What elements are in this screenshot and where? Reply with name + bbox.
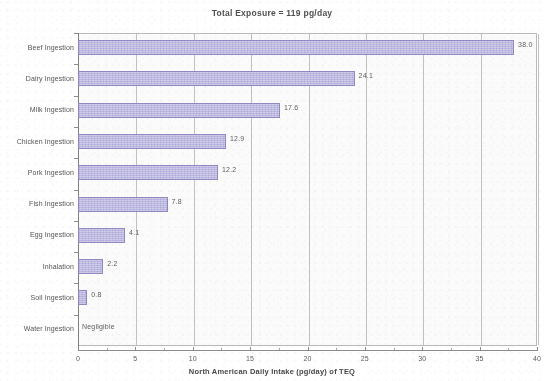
bar-row: Negligible: [78, 315, 537, 346]
x-axis-tick-label: 35: [476, 355, 484, 362]
x-axis-minor-tick: [221, 348, 222, 350]
y-axis-tick: [74, 33, 78, 34]
x-axis-tick-label: 40: [533, 355, 541, 362]
bar: [78, 71, 355, 86]
x-axis-tick-label: 30: [418, 355, 426, 362]
bar-row: 4.1: [78, 221, 537, 252]
x-axis-tick-label: 25: [361, 355, 369, 362]
bar-value-label: 4.1: [129, 229, 139, 236]
x-axis-minor-tick: [508, 348, 509, 350]
y-axis-tick: [74, 127, 78, 128]
y-axis-category-label: Chicken Ingestion: [0, 138, 74, 145]
y-axis-category-label: Dairy Ingestion: [0, 75, 74, 82]
x-axis-tick-label: 15: [246, 355, 254, 362]
y-axis-category-label: Water Ingestion: [0, 325, 74, 332]
x-axis-tick: [78, 347, 79, 351]
x-axis-minor-tick: [336, 348, 337, 350]
x-axis-tick-label: 20: [303, 355, 311, 362]
y-axis-category-label: Beef Ingestion: [0, 44, 74, 51]
x-axis-tick: [537, 347, 538, 351]
bar-value-label: 12.9: [230, 135, 244, 142]
bar-value-label: 0.8: [91, 291, 101, 298]
x-axis-tick-label: 0: [76, 355, 80, 362]
x-axis-minor-tick: [107, 348, 108, 350]
horizontal-bar-chart: Total Exposure = 119 pg/day Beef Ingesti…: [0, 0, 544, 381]
y-axis-tick: [74, 158, 78, 159]
x-axis-tick-label: 5: [133, 355, 137, 362]
y-axis-tick: [74, 315, 78, 316]
y-axis-tick: [74, 96, 78, 97]
bar: [78, 40, 514, 55]
x-axis-minor-tick: [451, 348, 452, 350]
x-axis-minor-tick: [279, 348, 280, 350]
x-axis-tick: [135, 347, 136, 351]
x-axis-tick: [422, 347, 423, 351]
bar: [78, 103, 280, 118]
bar-series: 38.024.117.612.912.27.84.12.20.8Negligib…: [78, 33, 537, 346]
bar-row: 12.9: [78, 127, 537, 158]
y-axis-category-label: Egg Ingestion: [0, 231, 74, 238]
bar: [78, 228, 125, 243]
y-axis-category-label: Fish Ingestion: [0, 200, 74, 207]
y-axis-tick: [74, 252, 78, 253]
x-axis-tick-label: 10: [189, 355, 197, 362]
x-axis-tick: [308, 347, 309, 351]
bar-row: 7.8: [78, 190, 537, 221]
bar-value-label: 12.2: [222, 166, 236, 173]
x-axis-title: North American Daily Intake (pg/day) of …: [0, 367, 544, 376]
x-axis-tick: [480, 347, 481, 351]
bar-value-label: Negligible: [82, 323, 115, 330]
bar: [78, 197, 168, 212]
bar-row: 12.2: [78, 158, 537, 189]
bar-row: 0.8: [78, 283, 537, 314]
gridline: [538, 34, 539, 345]
y-axis-tick: [74, 190, 78, 191]
y-axis-category-label: Inhalation: [0, 263, 74, 270]
y-axis-labels: Beef IngestionDairy IngestionMilk Ingest…: [0, 33, 74, 346]
y-axis-category-label: Soil Ingestion: [0, 294, 74, 301]
bar-row: 38.0: [78, 33, 537, 64]
y-axis-category-label: Pork Ingestion: [0, 169, 74, 176]
bar-value-label: 38.0: [518, 41, 532, 48]
bar-row: 24.1: [78, 64, 537, 95]
bar: [78, 165, 218, 180]
bar-value-label: 7.8: [172, 198, 182, 205]
bar-row: 17.6: [78, 96, 537, 127]
x-axis-tick: [365, 347, 366, 351]
bar: [78, 259, 103, 274]
x-axis-tick: [250, 347, 251, 351]
y-axis-tick: [74, 283, 78, 284]
x-axis-tick: [193, 347, 194, 351]
y-axis-tick: [74, 64, 78, 65]
bar-value-label: 2.2: [107, 260, 117, 267]
y-axis-tick: [74, 221, 78, 222]
bar: [78, 134, 226, 149]
bar-value-label: 24.1: [359, 72, 373, 79]
bar-value-label: 17.6: [284, 104, 298, 111]
x-axis-minor-tick: [164, 348, 165, 350]
bar-row: 2.2: [78, 252, 537, 283]
bar: [78, 290, 87, 305]
y-axis-category-label: Milk Ingestion: [0, 106, 74, 113]
chart-title: Total Exposure = 119 pg/day: [0, 8, 544, 18]
x-axis-minor-tick: [394, 348, 395, 350]
